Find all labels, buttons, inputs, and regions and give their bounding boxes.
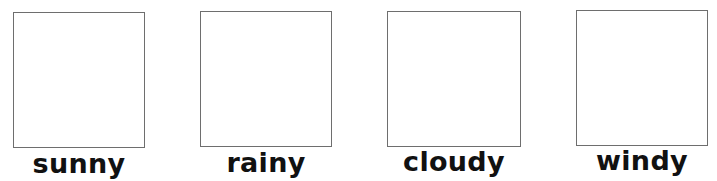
weather-label-rainy: rainy [200,147,332,179]
drawing-box-windy[interactable] [576,10,708,146]
drawing-box-rainy[interactable] [200,11,332,147]
weather-card-windy: windy [576,10,711,180]
weather-label-windy: windy [576,145,708,177]
weather-card-rainy: rainy [200,11,335,181]
drawing-box-cloudy[interactable] [387,11,521,147]
weather-card-sunny: sunny [13,12,148,181]
weather-card-cloudy: cloudy [387,11,522,181]
weather-label-cloudy: cloudy [387,146,521,178]
drawing-box-sunny[interactable] [13,12,145,148]
weather-label-sunny: sunny [13,148,145,180]
